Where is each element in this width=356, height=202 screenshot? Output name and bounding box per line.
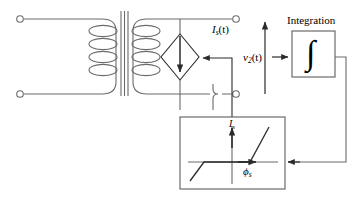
terminal-right-top[interactable]	[233, 16, 240, 23]
transformer-primary-windings	[89, 25, 117, 75]
integration-block-label: Integration	[287, 15, 335, 26]
secondary-voltage-label: v2(t)	[243, 52, 262, 64]
current-source-control-link	[203, 58, 232, 126]
circuit-diagram-figure: Is(t) v2(t) Integration Is ϕs ∫	[0, 0, 356, 202]
control-arrow-icon	[203, 58, 232, 126]
source-current-label: Is(t)	[212, 24, 229, 36]
terminal-left-bottom[interactable]	[17, 91, 24, 98]
integral-symbol-icon: ∫	[306, 36, 315, 70]
circuit-schematic-svg	[0, 0, 356, 202]
transformer	[24, 11, 232, 96]
transformer-core	[121, 11, 128, 96]
secondary-voltage-arrow	[265, 22, 288, 94]
transformer-primary-bottom-lead	[24, 82, 116, 94]
terminal-right-bottom[interactable]	[233, 91, 240, 98]
transformer-secondary-windings	[132, 25, 160, 75]
curve-x-axis-label: ϕs	[243, 166, 252, 178]
dependent-current-source	[161, 19, 199, 110]
wire-crossing-hop	[199, 84, 232, 110]
transformer-secondary-bottom-lead	[133, 82, 199, 94]
terminal-left-top[interactable]	[17, 16, 24, 23]
curve-y-axis-label: Is	[229, 119, 235, 130]
